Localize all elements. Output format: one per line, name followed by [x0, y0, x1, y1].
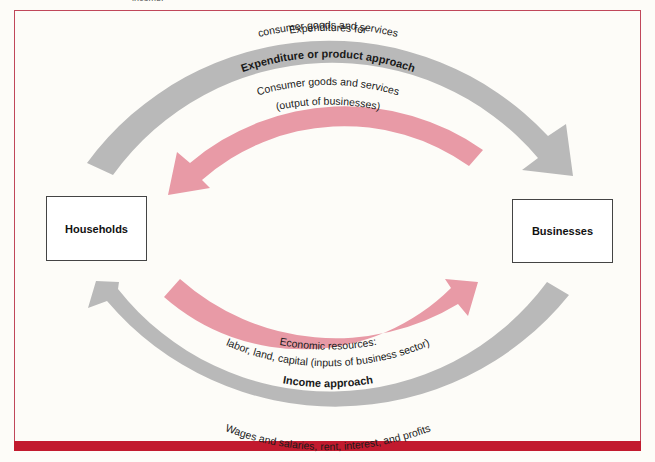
pink-arrow-economic-resources — [164, 279, 478, 349]
income-approach-label: Income approach — [282, 373, 374, 389]
households-label: Households — [65, 223, 128, 235]
top-inner-line1: Consumer goods and services — [255, 75, 400, 97]
pink-arrow-consumer-goods — [168, 106, 483, 195]
bottom-inner-line1: Economic resources: — [279, 335, 377, 352]
businesses-label: Businesses — [532, 225, 593, 237]
bottom-outer-line1: Wages and salaries, rent, interest, and … — [224, 421, 432, 452]
households-box: Households — [46, 196, 147, 261]
top-outer-line2: consumer goods and services — [257, 18, 400, 39]
businesses-box: Businesses — [512, 199, 613, 263]
